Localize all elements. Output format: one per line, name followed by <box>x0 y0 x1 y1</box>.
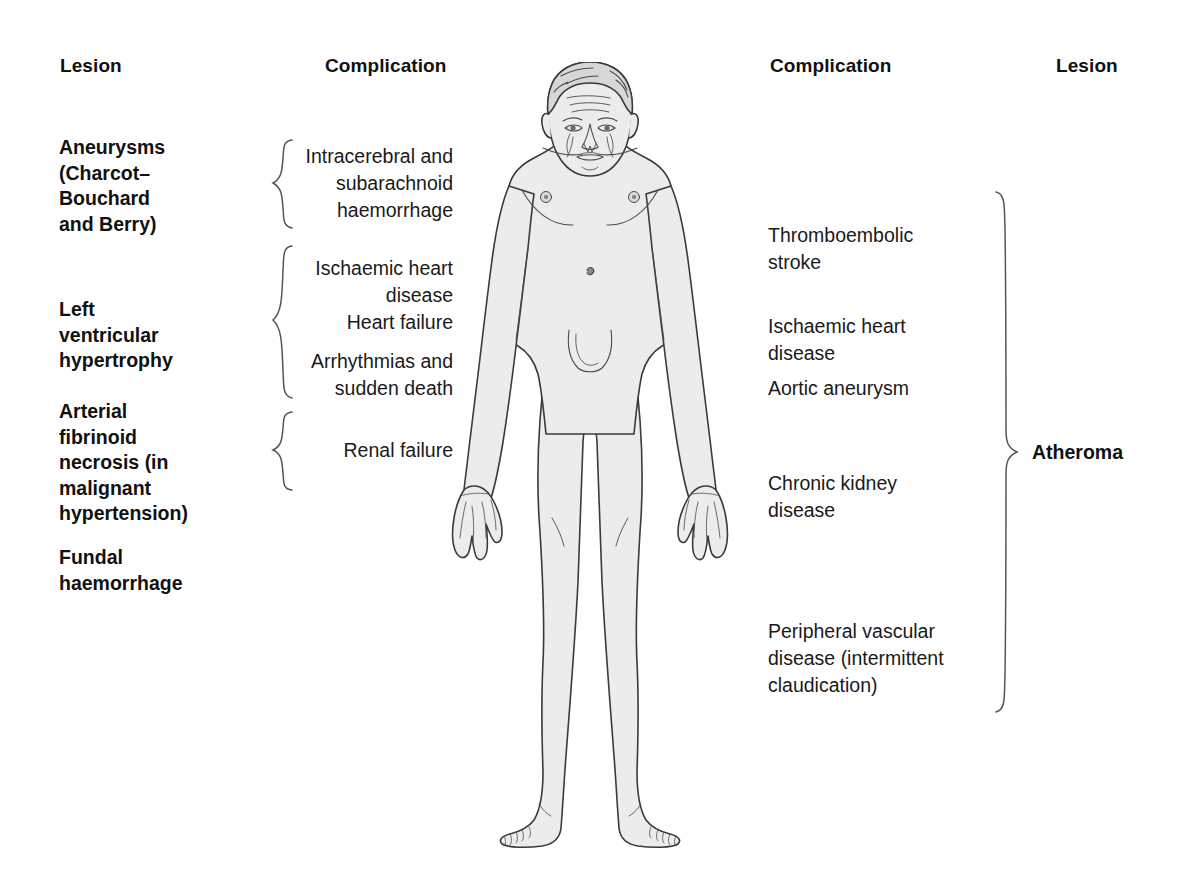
header-right-complication: Complication <box>770 55 892 77</box>
brace-atheroma <box>992 190 1028 714</box>
complication-thromboembolic-stroke: Thromboembolicstroke <box>768 222 978 276</box>
lesion-fundal-haemorrhage: Fundalhaemorrhage <box>59 545 259 596</box>
header-left-complication: Complication <box>325 55 447 77</box>
complication-ischaemic-heart-disease-left: Ischaemic heartdisease <box>290 255 453 309</box>
lesion-arterial-fibrinoid-necrosis: Arterialfibrinoidnecrosis (inmalignanthy… <box>59 399 259 527</box>
body-figure-container <box>430 62 750 866</box>
complication-peripheral-vascular-disease: Peripheral vasculardisease (intermittent… <box>768 618 993 699</box>
complication-aortic-aneurysm: Aortic aneurysm <box>768 375 978 402</box>
lesion-atheroma: Atheroma <box>1032 441 1123 464</box>
diagram-page: Lesion Complication Complication Lesion … <box>0 0 1178 892</box>
complication-heart-failure: Heart failure <box>290 309 453 336</box>
lesion-left-ventricular-hypertrophy: Leftventricularhypertrophy <box>59 297 249 374</box>
complication-intracerebral-subarachnoid-haemorrhage: Intracerebral andsubarachnoidhaemorrhage <box>290 143 453 224</box>
complication-chronic-kidney-disease: Chronic kidneydisease <box>768 470 978 524</box>
anterior-male-body-figure <box>430 62 750 862</box>
header-right-lesion: Lesion <box>1056 55 1118 77</box>
lesion-aneurysms: Aneurysms(Charcot–Bouchardand Berry) <box>59 135 249 237</box>
header-left-lesion: Lesion <box>60 55 122 77</box>
complication-arrhythmias-sudden-death: Arrhythmias andsudden death <box>290 348 453 402</box>
complication-renal-failure: Renal failure <box>290 437 453 464</box>
complication-ischaemic-heart-disease-right: Ischaemic heartdisease <box>768 313 978 367</box>
